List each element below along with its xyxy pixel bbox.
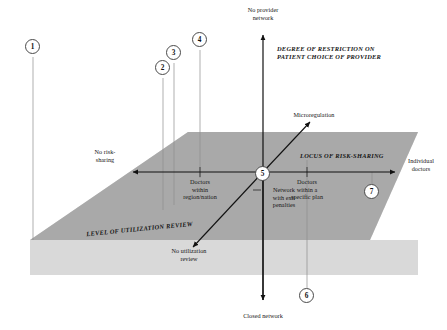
callout-6[interactable]: 6 bbox=[299, 288, 314, 303]
label-closed-network: Closed network bbox=[218, 312, 308, 320]
label-no-risk-sharing: No risk- sharing bbox=[79, 148, 131, 163]
label-no-utilization-review: No utilization review bbox=[151, 247, 227, 262]
label-no-provider-network: No provider network bbox=[218, 6, 308, 21]
callout-5[interactable]: 5 bbox=[255, 166, 270, 181]
callout-3[interactable]: 3 bbox=[166, 45, 181, 60]
axis-title-horizontal: LOCUS OF RISK-SHARING bbox=[300, 152, 410, 160]
tick-label-doctors-region-nation: Doctors within region/nation bbox=[169, 178, 231, 201]
tick-label-doctors-specific-plan: Doctors within a specific plan bbox=[283, 178, 331, 201]
axis-title-vertical: DEGREE OF RESTRICTION ON PATIENT CHOICE … bbox=[277, 45, 427, 62]
callout-7[interactable]: 7 bbox=[364, 184, 379, 199]
callout-2[interactable]: 2 bbox=[155, 60, 170, 75]
diagram-canvas: No provider network DEGREE OF RESTRICTIO… bbox=[0, 0, 447, 330]
callout-1[interactable]: 1 bbox=[25, 39, 40, 54]
callout-4[interactable]: 4 bbox=[192, 32, 207, 47]
label-microregulation: Microregulation bbox=[277, 111, 351, 119]
